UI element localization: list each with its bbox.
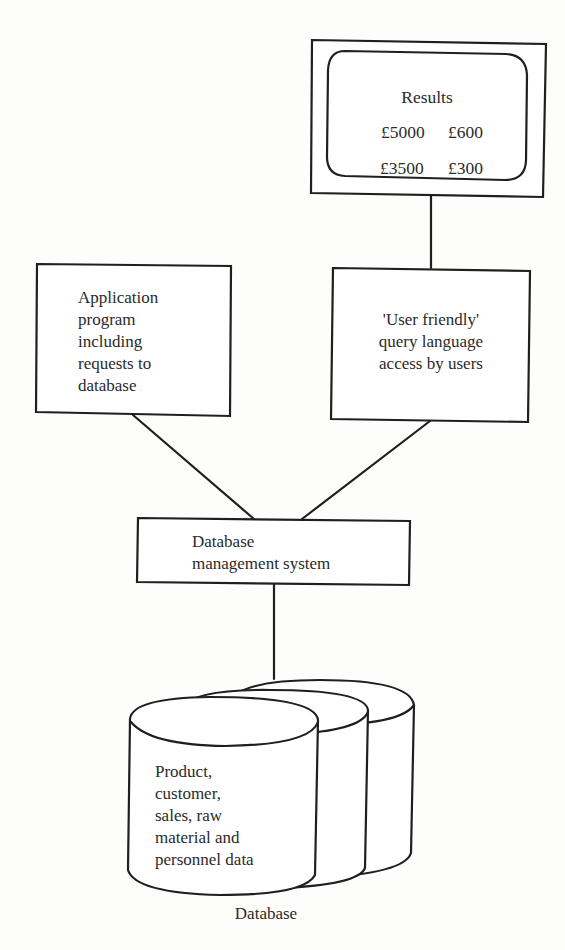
query-language-box: 'User friendly' query language access by… bbox=[331, 268, 530, 422]
application-box-line: including bbox=[78, 332, 143, 351]
database-cylinders: Product, customer, sales, raw material a… bbox=[128, 680, 414, 895]
database-content-line: sales, raw bbox=[155, 806, 223, 825]
application-box-line: requests to bbox=[78, 354, 151, 373]
database-content-line: material and bbox=[155, 828, 240, 847]
monitor-title: Results bbox=[401, 87, 453, 107]
result-value: £3500 bbox=[380, 158, 424, 178]
application-program-box: Application program including requests t… bbox=[36, 264, 231, 416]
results-monitor: Results £5000 £600 £3500 £300 bbox=[311, 40, 546, 197]
result-value: £600 bbox=[448, 122, 483, 142]
query-box-line: query language bbox=[379, 332, 483, 351]
connector-query-to-dbms bbox=[302, 421, 430, 519]
database-system-diagram: Results £5000 £600 £3500 £300 Applicatio… bbox=[0, 0, 565, 950]
connector-application-to-dbms bbox=[133, 415, 254, 519]
query-box-line: access by users bbox=[379, 354, 483, 373]
dbms-box-line: management system bbox=[192, 554, 330, 573]
application-box-line: database bbox=[78, 376, 137, 395]
result-value: £300 bbox=[448, 158, 483, 178]
result-value: £5000 bbox=[381, 122, 425, 142]
monitor-screen bbox=[327, 51, 527, 180]
database-caption: Database bbox=[235, 904, 297, 923]
database-content-line: customer, bbox=[155, 784, 221, 803]
application-box-line: program bbox=[78, 310, 136, 329]
database-content-line: personnel data bbox=[155, 850, 254, 869]
query-box-line: 'User friendly' bbox=[383, 310, 479, 329]
database-content-line: Product, bbox=[155, 762, 212, 781]
dbms-box-line: Database bbox=[192, 532, 254, 551]
application-box-line: Application bbox=[78, 288, 159, 307]
dbms-box: Database management system bbox=[137, 518, 410, 585]
